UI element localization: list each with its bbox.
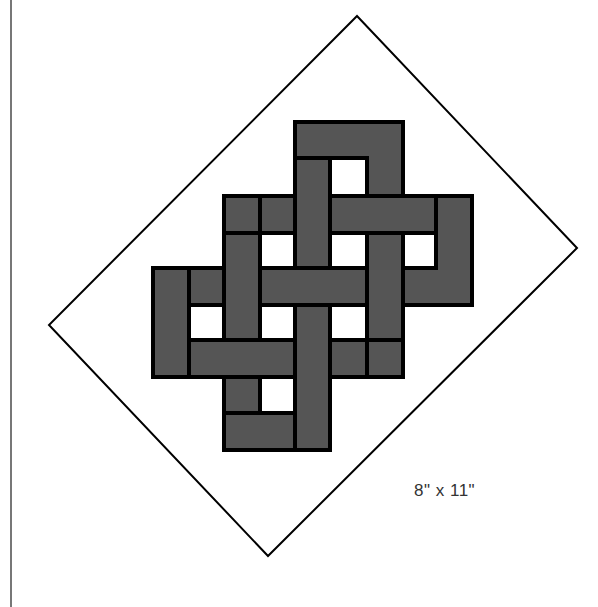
outline-col4-bottom [295, 305, 330, 450]
hole [260, 377, 295, 413]
outline-row6-mid [189, 340, 295, 377]
joint-upper-left [226, 198, 258, 231]
joint-left [155, 270, 187, 375]
hole [403, 233, 436, 268]
outline-col4-top [295, 158, 330, 268]
outline-row4-center [260, 268, 367, 305]
joint-top-right [369, 124, 401, 194]
hole [260, 233, 295, 268]
hole [189, 305, 224, 340]
joint-row6-right [369, 342, 401, 375]
knot-diagram [0, 0, 598, 607]
size-label: 8" x 11" [414, 481, 475, 501]
hole [330, 233, 367, 268]
hole [330, 305, 367, 340]
joint-row4-right [405, 270, 470, 303]
hole [330, 158, 367, 196]
outline-col2-mid [224, 233, 260, 340]
hole [260, 305, 295, 340]
diagram-page: 8" x 11" [0, 0, 598, 607]
outline-col6-mid [367, 233, 403, 340]
outline-row2-right [330, 196, 436, 233]
